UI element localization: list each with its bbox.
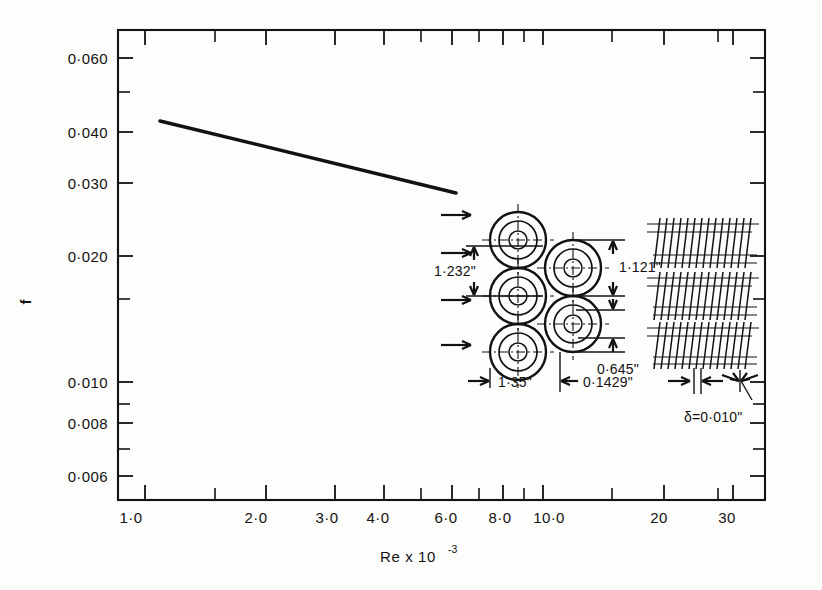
x-tick-label: 4·0 <box>367 509 390 526</box>
y-axis-ticks-left <box>118 58 133 476</box>
y-tick-label: 0·008 <box>68 415 108 432</box>
finned-tube-side-views <box>647 218 759 369</box>
x-axis-ticks-bottom <box>145 485 733 500</box>
dimension-arrow-icon <box>741 373 758 381</box>
dimension-arrow-icon <box>668 377 690 385</box>
y-tick-label: 0·006 <box>68 468 108 485</box>
dimension-arrow-icon <box>609 241 617 254</box>
flow-arrow-icon <box>441 296 471 304</box>
y-axis-title-text: f <box>17 299 34 305</box>
x-tick-label: 8·0 <box>489 509 512 526</box>
tube-bundle-geometry-inset: 1·232" 1·121" <box>434 204 759 425</box>
dimension-arrow-icon <box>609 299 617 309</box>
fin-thickness-dimension: δ=0·010" <box>684 370 758 425</box>
dimension-arrow-icon <box>609 339 617 352</box>
x-tick-labels: 1·0 2·0 3·0 4·0 6·0 8·0 10·0 20 30 <box>120 509 736 526</box>
x-tick-label: 3·0 <box>316 509 339 526</box>
x-tick-label: 20 <box>650 509 668 526</box>
y-axis-title: f <box>17 299 34 305</box>
y-tick-label: 0·060 <box>68 50 108 67</box>
dimension-arrow-icon <box>470 247 478 260</box>
fin-thickness-label: δ=0·010" <box>684 409 742 425</box>
y-axis-ticks-right <box>750 58 765 476</box>
x-tick-label: 30 <box>718 509 736 526</box>
fin-pitch-dimension: 0·1429" <box>560 352 723 394</box>
y-tick-label: 0·010 <box>68 374 108 391</box>
x-axis-title: Re x 10 -3 <box>380 543 457 565</box>
dimension-arrow-icon <box>561 377 578 385</box>
finned-tube-row <box>647 218 759 268</box>
transverse-offset-label: 1·35" <box>498 374 532 390</box>
finned-tube-row <box>647 322 759 369</box>
log-log-friction-factor-chart: 0·060 0·040 0·030 0·020 0·010 0·008 0·00… <box>0 0 822 590</box>
x-axis-title-text: Re x 10 <box>380 548 436 565</box>
flow-arrow-icon <box>441 341 471 349</box>
dimension-arrow-icon <box>609 282 617 295</box>
flow-arrows <box>441 211 471 349</box>
y-tick-label: 0·040 <box>68 124 108 141</box>
dimension-arrow-icon <box>722 373 739 381</box>
y-tick-label: 0·030 <box>68 175 108 192</box>
figure-canvas: 0·060 0·040 0·030 0·020 0·010 0·008 0·00… <box>0 0 822 590</box>
x-tick-label: 2·0 <box>245 509 268 526</box>
dimension-arrow-icon <box>468 377 489 385</box>
x-tick-label: 6·0 <box>435 509 458 526</box>
vertical-pitch-label: 1·232" <box>434 263 476 279</box>
x-tick-label: 1·0 <box>120 509 143 526</box>
dimension-arrow-icon <box>702 377 723 385</box>
dimension-arrow-icon <box>470 282 478 295</box>
finned-tube-row <box>647 272 759 320</box>
x-tick-label: 10·0 <box>533 509 565 526</box>
tube-gap-dimension: 0·645" <box>578 338 639 377</box>
tube-cross-section <box>537 288 609 360</box>
x-axis-ticks-top <box>145 30 733 45</box>
flow-arrow-icon <box>441 249 471 257</box>
y-tick-label: 0·020 <box>68 248 108 265</box>
x-axis-title-exponent: -3 <box>448 543 457 555</box>
y-tick-labels: 0·060 0·040 0·030 0·020 0·010 0·008 0·00… <box>68 50 108 485</box>
flow-arrow-icon <box>441 211 471 219</box>
fin-pitch-label: 0·1429" <box>583 374 633 390</box>
friction-factor-data-line <box>160 121 456 193</box>
